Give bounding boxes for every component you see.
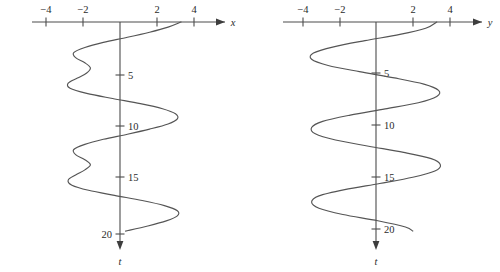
- left-xtick-label-2: 2: [154, 4, 159, 15]
- right-ytick-label--4: −4: [297, 4, 309, 15]
- right-ytick-label--2: −2: [334, 4, 345, 15]
- left-ttick-label-10: 10: [128, 121, 139, 132]
- right-ttick-label-10: 10: [384, 120, 395, 131]
- right-ytick-label-2: 2: [410, 4, 415, 15]
- right-panel: −4 −2 2 4 y 5 10 15 20 t: [283, 4, 493, 267]
- left-t-axis-label: t: [119, 256, 123, 267]
- left-xtick-label--4: −4: [40, 4, 52, 15]
- right-y-axis-arrow-icon: [473, 19, 482, 26]
- left-panel: −4 −2 2 4 x 5 10 15 20 t: [32, 4, 236, 267]
- right-t-axis-label: t: [375, 256, 379, 267]
- right-y-axis-label: y: [487, 17, 493, 28]
- right-ytick-label-4: 4: [447, 4, 453, 15]
- right-horizontal-axis: −4 −2 2 4 y: [283, 4, 493, 28]
- left-xtick-label-4: 4: [191, 4, 197, 15]
- left-t-axis-arrow-icon: [117, 241, 124, 250]
- right-vertical-axis: 5 10 15 20 t: [372, 22, 395, 267]
- left-xtick-label--2: −2: [77, 4, 88, 15]
- left-curve-path: [67, 22, 181, 231]
- plot-canvas: −4 −2 2 4 x 5 10 15 20 t: [0, 0, 500, 272]
- left-x-axis-arrow-icon: [216, 19, 225, 26]
- left-horizontal-axis: −4 −2 2 4 x: [32, 4, 236, 28]
- right-curve-path: [310, 22, 440, 231]
- left-ttick-label-5: 5: [128, 70, 133, 81]
- figure-container: −4 −2 2 4 x 5 10 15 20 t: [0, 0, 500, 272]
- right-t-axis-arrow-icon: [373, 241, 380, 250]
- right-ttick-label-20: 20: [384, 224, 395, 235]
- left-ttick-label-15: 15: [128, 172, 139, 183]
- left-ttick-label-20: 20: [102, 229, 113, 240]
- left-x-axis-label: x: [230, 17, 236, 28]
- left-vertical-axis: 5 10 15 20 t: [102, 22, 139, 267]
